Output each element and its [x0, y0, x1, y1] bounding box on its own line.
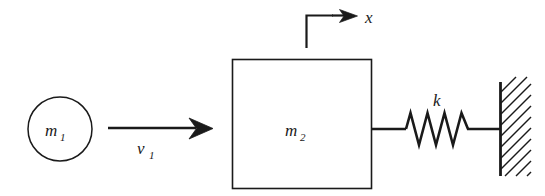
mass2-rect [233, 60, 372, 189]
fixed-wall [501, 77, 532, 176]
coordinate-label-x: x [364, 8, 373, 27]
mass2-label: m [285, 121, 297, 140]
mass1-body [28, 97, 92, 161]
coordinate-axis-marker [307, 10, 358, 49]
velocity-arrow [108, 118, 213, 139]
mass1-label-subscript: 1 [60, 131, 66, 143]
velocity-label-subscript: 1 [149, 149, 155, 161]
mass1-label: m [45, 121, 57, 140]
velocity-label: v [137, 139, 145, 158]
mass1-circle [28, 97, 92, 161]
diagram-canvas: x m 1 v 1 m 2 k [0, 0, 545, 196]
mass2-body [233, 60, 372, 189]
axis-corner-line [307, 16, 334, 49]
spring-zigzag [406, 113, 468, 145]
mass2-label-subscript: 2 [300, 131, 306, 143]
wall-hatching [501, 77, 531, 176]
spring-label: k [433, 91, 441, 110]
spring-element [406, 113, 468, 145]
mechanical-system-diagram: x m 1 v 1 m 2 k [0, 0, 545, 196]
